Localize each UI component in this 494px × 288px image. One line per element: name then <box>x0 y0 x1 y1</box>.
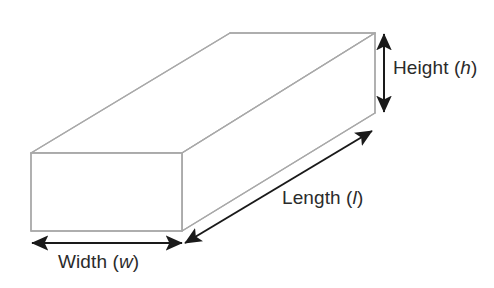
height-label-symbol: h <box>460 57 471 78</box>
length-dimension-label: Length (l) <box>282 188 363 207</box>
width-dimension-label: Width (w) <box>58 252 139 271</box>
width-label-text: Width <box>58 251 107 272</box>
width-label-symbol: w <box>119 251 133 272</box>
cuboid-front-face <box>31 153 182 231</box>
length-label-text: Length <box>282 187 341 208</box>
height-dimension-label: Height (h) <box>393 58 477 77</box>
cuboid-diagram-svg <box>0 0 494 288</box>
length-label-close-paren: ) <box>357 187 363 208</box>
width-label-close-paren: ) <box>133 251 139 272</box>
height-label-text: Height <box>393 57 449 78</box>
cuboid-dimension-figure: Height (h) Length (l) Width (w) <box>0 0 494 288</box>
height-label-close-paren: ) <box>471 57 477 78</box>
